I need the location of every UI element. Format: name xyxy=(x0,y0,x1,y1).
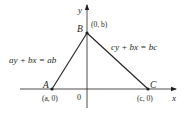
point-c-coord: (c, 0) xyxy=(137,94,153,103)
point-b-label: B xyxy=(77,24,83,34)
origin-label: 0 xyxy=(77,93,81,102)
point-a-label: A xyxy=(42,80,49,90)
point-a xyxy=(50,87,53,90)
point-a-coord: (a, 0) xyxy=(42,94,58,103)
point-b xyxy=(85,31,88,34)
equation-bc: cy + bx = bc xyxy=(111,42,157,52)
point-c-label: C xyxy=(150,80,157,90)
equation-ab: ay + bx = ab xyxy=(9,55,57,65)
triangle-diagram: y x 0 A B C (a, 0) (0, b) (c, 0) ay + bx… xyxy=(0,0,184,114)
line-ab xyxy=(52,33,87,89)
y-axis-label: y xyxy=(77,5,82,15)
x-axis-label: x xyxy=(171,93,176,103)
point-b-coord: (0, b) xyxy=(91,20,108,29)
